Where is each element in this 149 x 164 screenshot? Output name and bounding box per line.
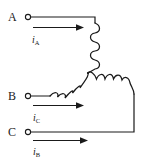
neutral-junction-point [87, 72, 89, 74]
terminal-node-c [25, 129, 30, 134]
schematic-canvas [0, 0, 149, 164]
terminal-label-b: B [8, 90, 16, 102]
terminal-label-c: C [8, 126, 16, 138]
three-phase-wye-diagram: A B C iA iC iB [0, 0, 149, 164]
current-label-ia: iA [32, 35, 39, 45]
current-subscript-ic: C [36, 117, 40, 124]
lead-wire-a [31, 17, 95, 23]
current-arrow-ib [33, 137, 88, 143]
current-arrow-ia [33, 24, 84, 30]
coil-phase-b [50, 73, 88, 98]
current-label-ic: iC [33, 113, 40, 123]
current-arrow-ic [33, 102, 84, 108]
coil-phase-c [88, 72, 134, 94]
terminal-node-b [25, 93, 30, 98]
lead-wire-c [31, 94, 134, 132]
terminal-node-a [25, 14, 30, 19]
current-subscript-ia: A [35, 39, 40, 46]
current-label-ib: iB [33, 147, 40, 157]
coil-phase-a [88, 23, 100, 73]
terminal-label-a: A [8, 11, 17, 23]
current-subscript-ib: B [36, 151, 40, 158]
